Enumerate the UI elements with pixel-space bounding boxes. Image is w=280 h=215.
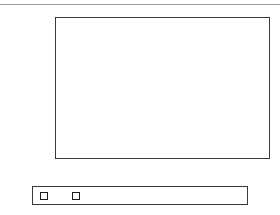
legend-item-regular <box>72 192 84 200</box>
legend-item-non-regular <box>40 192 52 200</box>
chart-legend <box>32 186 248 205</box>
plot-area <box>55 17 270 159</box>
bar-series-container <box>56 18 269 158</box>
chart-figure <box>0 0 280 215</box>
legend-swatch-non-regular <box>40 192 48 200</box>
x-axis <box>55 159 270 185</box>
y-axis <box>0 0 55 176</box>
legend-swatch-regular <box>72 192 80 200</box>
